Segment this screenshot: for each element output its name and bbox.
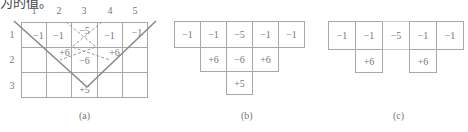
caption-c: (c) [393, 110, 404, 121]
cell-c-r2c2: +6 [355, 49, 383, 73]
cell-b-r1c5: −1 [278, 21, 305, 48]
cell-c-r2c4: +6 [409, 49, 437, 73]
cell-b-r1c3: −5 [226, 21, 253, 48]
cell-c-r1c1: −1 [328, 21, 356, 50]
cell-c-r1c5: −1 [436, 21, 464, 50]
caption-a: (a) [79, 110, 90, 121]
cell-b-r1c2: −1 [200, 21, 227, 48]
cell-b-r1c4: −1 [252, 21, 279, 48]
cell-b-r2c4: +6 [252, 47, 279, 72]
cell-c-r1c4: −1 [409, 21, 437, 50]
cell-b-r2c2: +6 [200, 47, 227, 72]
cell-b-r1c1: −1 [174, 21, 201, 48]
cell-b-r3c3: +5 [226, 71, 253, 95]
cell-c-r1c2: −1 [355, 21, 383, 50]
caption-b: (b) [241, 110, 253, 121]
cell-b-r2c3: −6 [226, 47, 253, 72]
cell-c-r1c3: −5 [382, 21, 410, 50]
